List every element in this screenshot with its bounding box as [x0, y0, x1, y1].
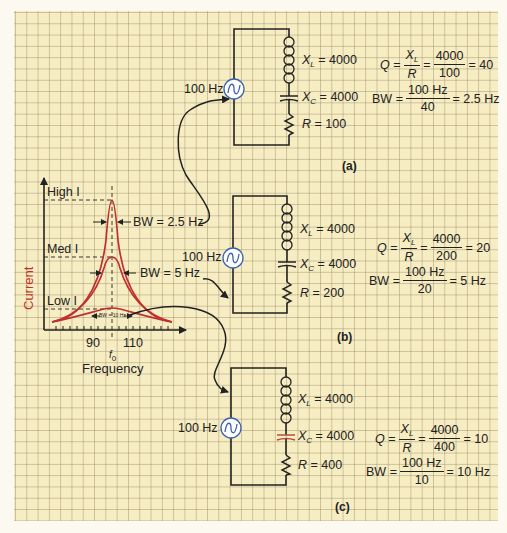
bw-high-label: BW = 2.5 Hz: [133, 216, 204, 229]
inductor-b: [282, 204, 292, 250]
arrow-to-circuit-b: [203, 279, 228, 298]
source-a-label: 100 Hz: [184, 83, 224, 96]
label-c: (c): [335, 501, 350, 513]
source-b-label: 100 Hz: [182, 251, 222, 264]
circuit-a: [224, 29, 298, 145]
xl-b-label: XL = 4000: [300, 223, 355, 238]
resistor-b: [283, 282, 291, 303]
r-a-label: R = 100: [302, 118, 346, 131]
med-current-label: Med I: [47, 243, 78, 256]
label-a: (a): [342, 160, 357, 172]
circuit-b: [223, 196, 296, 313]
arrow-to-circuit-c: [130, 307, 228, 392]
q-equation-a: Q = XLR = 4000100 = 40: [380, 48, 493, 81]
circuit-c: [221, 368, 295, 485]
high-current-label: High I: [47, 186, 80, 199]
bw-low-label: BW = 10 Hz: [99, 313, 126, 318]
resistor-c: [282, 455, 290, 475]
xc-a-label: XC = 4000: [302, 91, 358, 106]
arrow-to-circuit-a: [178, 99, 229, 224]
q-equation-c: Q = XLR = 4000400 = 10: [375, 422, 488, 455]
r-b-label: R = 200: [300, 287, 344, 300]
label-b: (b): [337, 331, 352, 343]
bw-equation-b: BW = 100 Hz20 = 5 Hz: [369, 265, 486, 296]
xc-b-label: XC = 4000: [300, 258, 356, 273]
xc-c-label: XC = 4000: [298, 430, 354, 445]
bw-equation-c: BW = 100 Hz10 = 10 Hz: [366, 456, 490, 487]
resistor-a: [285, 114, 293, 135]
q-equation-b: Q = XLR = 4000200 = 20: [377, 231, 490, 264]
xl-c-label: XL = 4000: [298, 393, 353, 408]
x-axis-label: Frequency: [82, 362, 143, 375]
low-current-label: Low I: [47, 295, 77, 308]
x-tick-90: 90: [86, 337, 100, 350]
bw-med-label: BW = 5 Hz: [140, 267, 200, 280]
bw-equation-a: BW = 100 Hz40 = 2.5 Hz: [372, 83, 499, 114]
inductor-a: [284, 37, 294, 83]
source-c-label: 100 Hz: [178, 422, 218, 435]
connector-arrows: [130, 99, 229, 392]
y-axis-label: Current: [22, 267, 35, 310]
x-tick-110: 110: [123, 337, 143, 350]
r-c-label: R = 400: [298, 459, 342, 472]
xl-a-label: XL = 4000: [302, 54, 357, 69]
inductor-c: [281, 377, 291, 423]
